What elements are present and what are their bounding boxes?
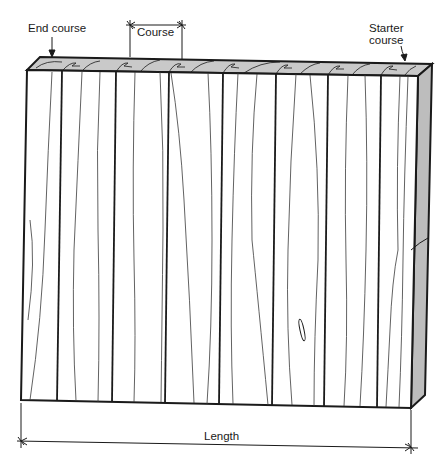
end-course-pointer — [49, 37, 55, 57]
length-dimension — [17, 403, 418, 454]
panel-drawing — [0, 0, 448, 473]
wood-panel-diagram: End course Course Starter course Length — [0, 0, 448, 473]
end-course-label: End course — [28, 22, 86, 35]
length-label: Length — [204, 430, 239, 443]
course-label: Course — [137, 26, 174, 39]
starter-course-label-line2: course — [369, 34, 404, 47]
starter-course-pointer — [401, 46, 407, 61]
